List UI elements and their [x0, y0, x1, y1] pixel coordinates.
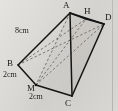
- vertex-label-A: A: [63, 1, 70, 10]
- shaded-face-AMC: [36, 13, 72, 96]
- vertex-label-C: C: [65, 99, 71, 108]
- measure-label-MC: 2cm: [29, 93, 43, 101]
- vertex-label-D: D: [105, 13, 112, 22]
- vertex-dot-M: [35, 84, 38, 87]
- vertex-label-H: H: [84, 7, 91, 16]
- shaded-face-AHD: [70, 13, 104, 96]
- measure-label-BM: 2cm: [3, 71, 17, 79]
- edge-B-M: [18, 65, 36, 85]
- geometry-svg: [0, 0, 118, 111]
- measure-label-AB: 8cm: [15, 27, 29, 35]
- geometry-figure: A H D B M C 8cm 2cm 2cm: [0, 0, 118, 111]
- vertex-label-B: B: [7, 59, 13, 68]
